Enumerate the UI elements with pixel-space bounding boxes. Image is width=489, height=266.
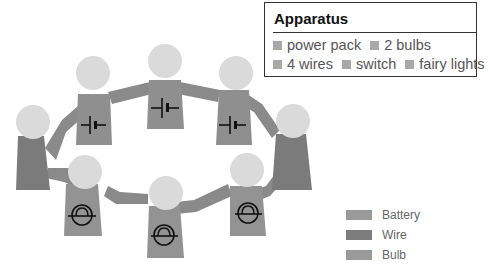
square-bullet-icon <box>370 41 379 50</box>
apparatus-title: Apparatus <box>274 10 348 27</box>
figure-bulb-bottom <box>147 176 184 258</box>
legend-item-bulb: Bulb <box>346 245 420 265</box>
bulb-swatch <box>346 250 372 260</box>
wire-swatch <box>346 230 372 240</box>
legend-label: Battery <box>382 208 420 222</box>
figure-battery-top <box>147 44 184 129</box>
apparatus-item: 4 wires <box>287 56 333 72</box>
apparatus-line-1: power pack 2 bulbs <box>273 37 436 53</box>
legend: Battery Wire Bulb <box>346 205 420 265</box>
apparatus-item: fairy lights <box>419 56 484 72</box>
square-bullet-icon <box>342 60 351 69</box>
square-bullet-icon <box>273 60 282 69</box>
figure-bulb-lower-left <box>64 155 102 236</box>
square-bullet-icon <box>405 60 414 69</box>
divider <box>273 32 476 33</box>
figure-battery-upper-right <box>216 56 253 145</box>
legend-item-battery: Battery <box>346 205 420 225</box>
legend-label: Bulb <box>382 248 406 262</box>
legend-label: Wire <box>382 228 407 242</box>
figure-wire-right <box>272 104 312 190</box>
apparatus-item: switch <box>356 56 396 72</box>
battery-swatch <box>346 210 372 220</box>
figure-wire-left <box>16 105 50 190</box>
apparatus-item: power pack <box>287 37 361 53</box>
apparatus-item: 2 bulbs <box>384 37 431 53</box>
legend-item-wire: Wire <box>346 225 420 245</box>
apparatus-box: Apparatus power pack 2 bulbs 4 wires swi… <box>264 2 477 77</box>
figure-bulb-lower-right <box>230 153 266 236</box>
figure-battery-upper-left <box>76 56 112 145</box>
apparatus-line-2: 4 wires switch fairy lights <box>273 56 489 72</box>
square-bullet-icon <box>273 41 282 50</box>
